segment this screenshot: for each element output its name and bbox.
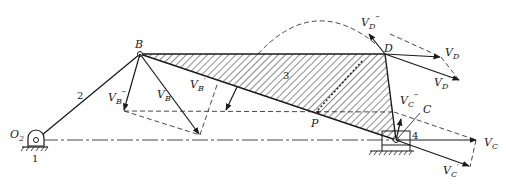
label-b: B (134, 38, 143, 51)
label-link-2: 2 (77, 90, 83, 101)
label-vd-double: VD‴ (361, 14, 380, 31)
vector-vd-double (369, 34, 385, 54)
label-link-1: 1 (32, 153, 38, 164)
label-vd-prime: VD′ (434, 74, 450, 91)
label-link-3: 3 (283, 70, 289, 81)
vector-vb-double (124, 54, 140, 110)
mechanism-diagram: O2 1 2 3 4 B D C P VB‴ VB VB′ VD‴ VD VD′… (0, 0, 506, 189)
label-c: C (423, 103, 432, 116)
vector-vb-prime (226, 87, 237, 110)
label-vd: VD (445, 46, 460, 61)
label-vb: VB (157, 88, 171, 103)
label-link-4: 4 (412, 130, 418, 141)
instant-center-p (317, 111, 320, 114)
label-vc: VC (484, 136, 498, 151)
label-o2: O2 (10, 128, 24, 143)
label-vb-double: VB‴ (108, 89, 127, 106)
label-d: D (383, 42, 393, 55)
label-vc-double: VC‴ (400, 92, 419, 109)
label-p: P (310, 117, 319, 130)
label-vb-prime: VB′ (190, 76, 206, 93)
label-vc-prime: VC′ (443, 162, 459, 179)
